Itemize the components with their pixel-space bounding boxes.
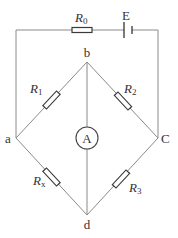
node-label-a: a: [5, 131, 11, 146]
resistor-r0-body: [72, 28, 92, 33]
node-label-b: b: [84, 45, 91, 60]
node-label-d: d: [84, 217, 91, 232]
resistor-r1-body: [43, 91, 60, 109]
resistor-r1-label: R1: [29, 81, 42, 97]
resistor-rx: Rx: [32, 168, 60, 189]
resistor-r3-body: [112, 170, 129, 188]
resistor-r0: R0: [72, 10, 92, 33]
node-label-c: C: [161, 131, 170, 146]
resistor-r3-label: R3: [128, 180, 142, 196]
resistor-rx-label: Rx: [32, 173, 46, 189]
ammeter: A: [76, 127, 98, 149]
resistor-r2-label: R2: [123, 81, 136, 97]
resistor-r0-label: R0: [74, 10, 88, 26]
bridge-circuit-diagram: R0 E R1 R2 Rx: [0, 0, 178, 238]
resistor-r2: R2: [114, 81, 136, 110]
ammeter-label: A: [82, 131, 92, 146]
resistor-r1: R1: [29, 81, 60, 109]
battery-e: E: [122, 8, 132, 38]
battery-label: E: [122, 8, 130, 23]
resistor-r3: R3: [112, 170, 142, 196]
